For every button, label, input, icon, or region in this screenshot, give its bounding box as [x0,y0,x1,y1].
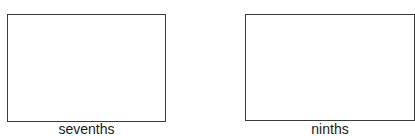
ninths-label: ninths [245,122,415,136]
sevenths-rectangle [7,14,166,122]
sevenths-label: sevenths [7,122,166,136]
ninths-rectangle [245,14,415,121]
